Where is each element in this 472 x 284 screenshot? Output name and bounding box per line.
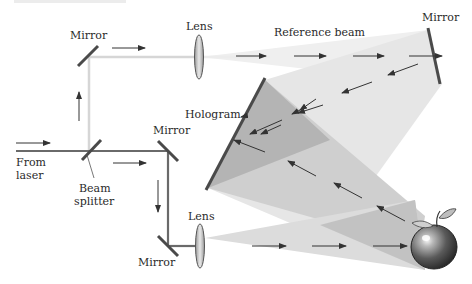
label-mirror-bottom: Mirror [138,256,175,269]
label-mirror-middle: Mirror [153,124,190,137]
label-mirror-top-right: Mirror [422,11,459,24]
diagram-graphics [0,0,472,284]
label-from-laser-line1: From [16,156,46,169]
lens-top [195,35,204,79]
label-hologram: Hologram [185,108,241,121]
label-lens-top: Lens [186,20,213,33]
label-from-laser-line2: laser [16,169,44,182]
label-lens-bottom: Lens [188,210,215,223]
hologram-diagram: Mirror Lens Reference beam Mirror Hologr… [0,0,472,284]
label-mirror-top-left: Mirror [70,29,107,42]
lens-bottom [196,224,205,268]
label-reference-beam: Reference beam [274,26,365,39]
label-beam-splitter-line2: splitter [74,195,114,208]
beam-splitter-pointer [87,155,94,178]
label-beam-splitter-line1: Beam [79,182,111,195]
